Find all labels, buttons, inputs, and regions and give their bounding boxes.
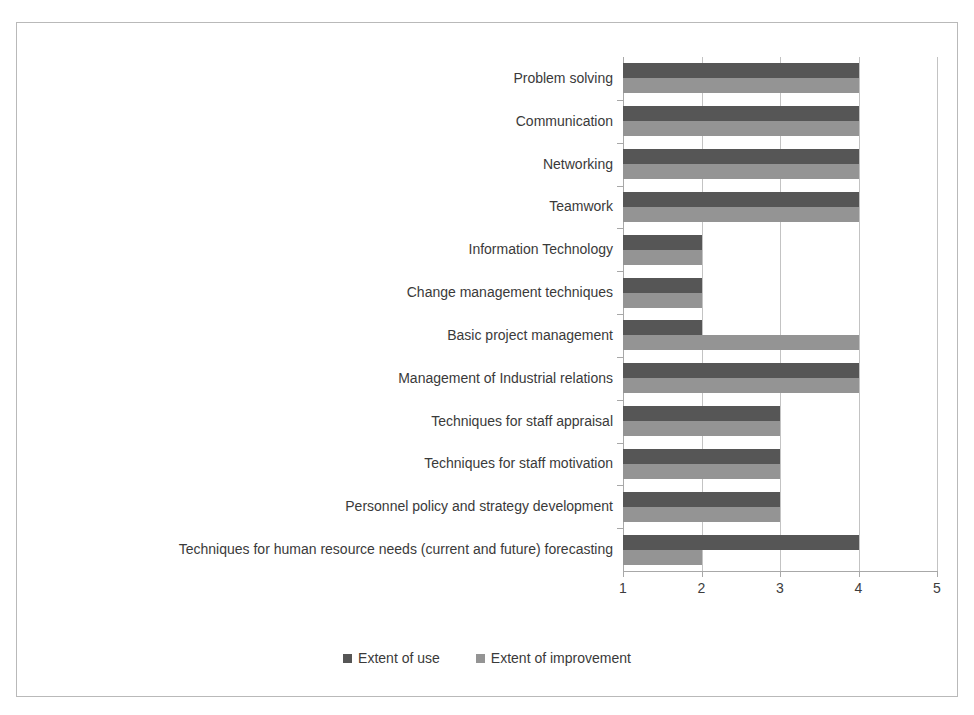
category-label: Change management techniques bbox=[153, 272, 623, 314]
bar-extent-of-use bbox=[623, 492, 780, 507]
category-label: Techniques for staff motivation bbox=[153, 443, 623, 485]
bar-extent-of-improvement bbox=[623, 293, 702, 308]
bar-chart: 12345 Problem solvingCommunicationNetwor… bbox=[0, 0, 974, 715]
legend-item[interactable]: Extent of improvement bbox=[476, 650, 631, 666]
bar-extent-of-use bbox=[623, 449, 780, 464]
category-label: Personnel policy and strategy developmen… bbox=[153, 486, 623, 528]
bar-extent-of-use bbox=[623, 235, 702, 250]
bar-group bbox=[623, 235, 937, 265]
gridline-5 bbox=[937, 57, 938, 571]
legend-swatch-icon bbox=[343, 654, 352, 663]
value-tick-4 bbox=[859, 571, 860, 577]
bar-group bbox=[623, 320, 937, 350]
category-label: Problem solving bbox=[153, 57, 623, 99]
value-tick-label-2: 2 bbox=[682, 580, 722, 596]
bar-extent-of-use bbox=[623, 363, 859, 378]
legend-item[interactable]: Extent of use bbox=[343, 650, 440, 666]
bar-extent-of-improvement bbox=[623, 335, 859, 350]
figure-container: 12345 Problem solvingCommunicationNetwor… bbox=[0, 0, 974, 715]
bar-group bbox=[623, 492, 937, 522]
bar-extent-of-improvement bbox=[623, 78, 859, 93]
category-label: Networking bbox=[153, 143, 623, 185]
bar-group bbox=[623, 363, 937, 393]
category-label: Communication bbox=[153, 100, 623, 142]
bar-extent-of-use bbox=[623, 106, 859, 121]
bar-group bbox=[623, 406, 937, 436]
bar-extent-of-improvement bbox=[623, 207, 859, 222]
bar-extent-of-use bbox=[623, 278, 702, 293]
value-tick-1 bbox=[623, 571, 624, 577]
bar-group bbox=[623, 535, 937, 565]
plot-area bbox=[623, 57, 937, 571]
value-tick-2 bbox=[702, 571, 703, 577]
category-label: Basic project management bbox=[153, 314, 623, 356]
bar-group bbox=[623, 449, 937, 479]
bar-extent-of-use bbox=[623, 535, 859, 550]
bar-extent-of-improvement bbox=[623, 421, 780, 436]
bar-extent-of-improvement bbox=[623, 378, 859, 393]
category-label: Techniques for human resource needs (cur… bbox=[153, 529, 623, 571]
bar-extent-of-use bbox=[623, 63, 859, 78]
bar-extent-of-improvement bbox=[623, 550, 702, 565]
value-tick-5 bbox=[937, 571, 938, 577]
bar-extent-of-use bbox=[623, 320, 702, 335]
value-tick-label-5: 5 bbox=[917, 580, 957, 596]
bar-group bbox=[623, 192, 937, 222]
legend-swatch-icon bbox=[476, 654, 485, 663]
category-label: Information Technology bbox=[153, 229, 623, 271]
bar-extent-of-use bbox=[623, 149, 859, 164]
bar-extent-of-use bbox=[623, 192, 859, 207]
bar-group bbox=[623, 106, 937, 136]
bar-extent-of-improvement bbox=[623, 121, 859, 136]
category-label: Management of Industrial relations bbox=[153, 357, 623, 399]
bar-extent-of-improvement bbox=[623, 464, 780, 479]
bar-extent-of-improvement bbox=[623, 164, 859, 179]
bar-extent-of-use bbox=[623, 406, 780, 421]
category-label: Techniques for staff appraisal bbox=[153, 400, 623, 442]
value-tick-label-4: 4 bbox=[839, 580, 879, 596]
bar-group bbox=[623, 63, 937, 93]
value-tick-label-3: 3 bbox=[760, 580, 800, 596]
chart-legend: Extent of useExtent of improvement bbox=[0, 650, 974, 666]
legend-label: Extent of use bbox=[358, 650, 440, 666]
category-label: Teamwork bbox=[153, 186, 623, 228]
value-tick-label-1: 1 bbox=[603, 580, 643, 596]
bar-extent-of-improvement bbox=[623, 250, 702, 265]
bar-extent-of-improvement bbox=[623, 507, 780, 522]
value-tick-3 bbox=[780, 571, 781, 577]
bar-group bbox=[623, 149, 937, 179]
bar-group bbox=[623, 278, 937, 308]
legend-label: Extent of improvement bbox=[491, 650, 631, 666]
